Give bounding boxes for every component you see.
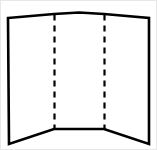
trifold-board-diagram: Line drawing of an open three-panel fold…: [0, 0, 157, 150]
trifold-board-svg: [1, 1, 157, 150]
board-outline: [8, 13, 149, 145]
